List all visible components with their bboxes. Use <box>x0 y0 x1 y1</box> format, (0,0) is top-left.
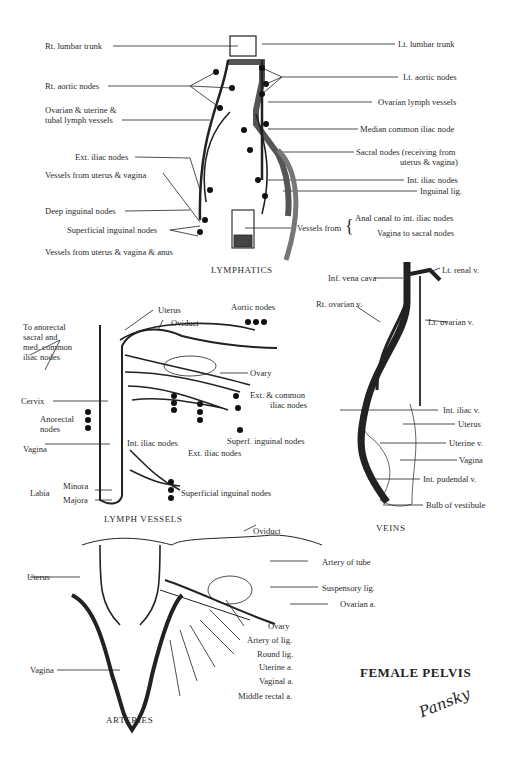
label-median-common-iliac-node: Median common iliac node <box>360 124 454 134</box>
label-bulb-of-vestibule: Bulb of vestibule <box>426 500 485 510</box>
label-inf-vena-cava: Inf. vena cava <box>328 273 376 283</box>
label-ovarian-lymph-vessels: Ovarian lymph vessels <box>378 97 456 107</box>
label-to-anorectal-3: med. common <box>23 342 72 352</box>
label-oviduct: Oviduct <box>171 318 199 328</box>
label-ovary: Ovary <box>268 621 289 631</box>
label-uterus: Uterus <box>27 572 50 582</box>
label-sacral-nodes-2: uterus & vagina) <box>400 157 458 167</box>
label-uterine-v: Uterine v. <box>449 438 483 448</box>
label-vessels-from: Vessels from <box>297 223 341 233</box>
label-suspensory-lig: Suspensory lig. <box>322 583 375 593</box>
label-anorectal-1: Anorectal <box>40 414 74 424</box>
label-ovarian-uterine-1: Ovarian & uterine & <box>45 105 116 115</box>
brace-icon: { <box>345 217 354 235</box>
label-lt-aortic-nodes: Lt. aortic nodes <box>403 72 457 82</box>
label-artery-of-lig: Artery of lig. <box>247 635 292 645</box>
plate-title: FEMALE PELVIS <box>360 665 471 681</box>
panel-title-arteries: ARTERIES <box>106 715 153 725</box>
label-middle-rectal-a: Middle rectal a. <box>238 691 292 701</box>
panel-title-lymph-vessels: LYMPH VESSELS <box>104 514 183 524</box>
label-ext-iliac-nodes: Ext. iliac nodes <box>188 448 241 458</box>
label-aortic-nodes: Aortic nodes <box>231 302 275 312</box>
label-int-pudendal-v: Int. pudendal v. <box>423 474 476 484</box>
label-superficial-inguinal-nodes: Superficial inguinal nodes <box>181 488 271 498</box>
label-ovary: Ovary <box>250 368 271 378</box>
label-vagina: Vagina <box>30 665 54 675</box>
label-to-anorectal-4: iliac nodes <box>23 352 60 362</box>
label-lt-ovarian-v: Lt. ovarian v. <box>428 317 474 327</box>
label-labia: Labia <box>30 488 50 498</box>
label-majora: Majora <box>63 495 88 505</box>
label-uterine-a: Uterine a. <box>259 662 293 672</box>
label-ext-common-iliac-1: Ext. & common <box>250 390 305 400</box>
label-to-anorectal-1: To anorectal <box>23 322 66 332</box>
label-vagina: Vagina <box>459 455 483 465</box>
label-ext-common-iliac-2: iliac nodes <box>270 400 307 410</box>
label-uterus: Uterus <box>458 419 481 429</box>
label-minora: Minora <box>63 481 88 491</box>
label-int-iliac-nodes: Int. iliac nodes <box>407 175 458 185</box>
label-vagina-sacral: Vagina to sacral nodes <box>377 228 454 238</box>
label-cervix: Cervix <box>21 396 44 406</box>
label-oviduct: Oviduct <box>253 526 281 536</box>
label-int-iliac-v: Int. iliac v. <box>443 405 480 415</box>
label-anorectal-2: nodes <box>40 424 60 434</box>
label-anal-canal: Anal canal to int. iliac nodes <box>355 213 453 223</box>
label-rt-lumbar-trunk: Rt. lumbar trunk <box>45 41 102 51</box>
label-lt-lumbar-trunk: Lt. lumbar trunk <box>398 39 455 49</box>
label-rt-aortic-nodes: Rt. aortic nodes <box>45 81 99 91</box>
label-vessels-uterus-vagina-anus: Vessels from uterus & vagina & anus <box>45 247 173 257</box>
label-artery-of-tube: Artery of tube <box>322 557 371 567</box>
label-vagina: Vagina <box>23 444 47 454</box>
label-vaginal-a: Vaginal a. <box>259 676 293 686</box>
label-uterus: Uterus <box>158 305 181 315</box>
label-ovarian-uterine-2: tubal lymph vessels <box>45 115 113 125</box>
label-superf-inguinal-nodes: Superf. inguinal nodes <box>227 436 305 446</box>
label-superficial-inguinal-nodes: Superficial inguinal nodes <box>67 225 157 235</box>
label-vessels-uterus-vagina: Vessels from uterus & vagina <box>45 170 146 180</box>
label-rt-ovarian-v: Rt. ovarian v. <box>316 299 362 309</box>
label-ext-iliac-nodes: Ext. iliac nodes <box>75 152 128 162</box>
label-inguinal-lig: Inguinal lig. <box>420 186 462 196</box>
label-lt-renal-v: Lt. renal v. <box>442 265 479 275</box>
panel-title-lymphatics: LYMPHATICS <box>211 265 273 275</box>
label-int-iliac-nodes: Int. iliac nodes <box>127 438 178 448</box>
label-to-anorectal-2: sacral and <box>23 332 58 342</box>
label-ovarian-a: Ovarian a. <box>340 599 376 609</box>
label-sacral-nodes-1: Sacral nodes (receiving from <box>356 147 456 157</box>
label-deep-inguinal-nodes: Deep inguinal nodes <box>45 206 116 216</box>
label-round-lig: Round lig. <box>257 649 293 659</box>
panel-title-veins: VEINS <box>376 523 406 533</box>
